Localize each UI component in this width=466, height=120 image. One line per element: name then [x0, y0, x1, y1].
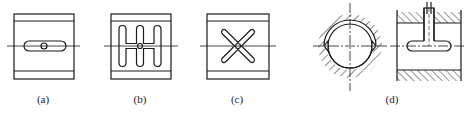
panel-c-label: (c) [231, 93, 243, 105]
panel-d-section-drawing [313, 3, 388, 91]
panel-a-label: (a) [37, 93, 49, 105]
panel-d-longitudinal-drawing [390, 2, 466, 81]
panel-c-drawing [200, 14, 276, 79]
panel-b-drawing [104, 14, 178, 79]
panel-b-label: (b) [134, 93, 147, 105]
panel-d-label: (d) [386, 93, 399, 105]
panel-a-drawing [7, 14, 80, 79]
